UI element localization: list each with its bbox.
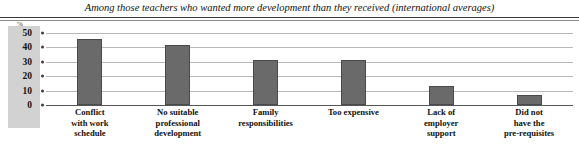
bar-4 [341, 60, 366, 105]
title-divider-thin [0, 20, 579, 21]
x-axis-label-line: Lack of [427, 107, 455, 117]
x-axis-label-line: professional [156, 118, 200, 128]
x-axis-label-2: No suitableprofessionaldevelopment [134, 107, 222, 139]
bar-1 [77, 39, 102, 105]
y-axis-tick-label-0: 0 [10, 100, 32, 110]
bar-3 [253, 60, 278, 105]
y-axis-tick-label-10: 10 [10, 86, 32, 96]
gridline-50 [46, 33, 573, 34]
x-axis-label-line: Conflict [75, 107, 105, 117]
y-axis-tick-marker-30 [41, 60, 44, 63]
title-divider-thick [0, 17, 579, 18]
y-axis-tick-label-20: 20 [10, 71, 32, 81]
x-axis-label-line: development [154, 128, 201, 138]
x-axis-label-line: pre-requisites [504, 128, 554, 138]
gridline-10 [46, 91, 573, 92]
x-axis-label-line: have the [514, 118, 545, 128]
y-axis-tick-marker-50 [41, 32, 44, 35]
y-axis-tick-label-50: 50 [10, 28, 32, 38]
gridline-40 [46, 47, 573, 48]
y-axis-tick-marker-20 [41, 75, 44, 78]
y-axis-tick-label-40: 40 [10, 42, 32, 52]
x-axis-label-line: No suitable [157, 107, 198, 117]
x-axis-label-line: Family [253, 107, 279, 117]
gridline-30 [46, 62, 573, 63]
x-axis-label-line: with work [71, 118, 108, 128]
y-axis-tick-marker-40 [41, 46, 44, 49]
x-axis-label-6: Did nothave thepre-requisites [485, 107, 573, 139]
x-axis-label-line: Too expensive [328, 107, 379, 117]
bar-5 [429, 86, 454, 105]
bar-2 [165, 45, 190, 105]
x-axis-label-line: Did not [515, 107, 542, 117]
x-axis-label-line: responsibilities [238, 118, 293, 128]
x-axis-label-3: Familyresponsibilities [222, 107, 310, 128]
x-axis-label-line: schedule [74, 128, 106, 138]
x-axis-label-5: Lack ofemployersupport [397, 107, 485, 139]
x-axis-label-line: employer [424, 118, 458, 128]
x-axis-label-1: Conflictwith workschedule [46, 107, 134, 139]
x-axis-label-line: support [427, 128, 456, 138]
chart-figure: Among those teachers who wanted more dev… [0, 0, 579, 145]
y-axis-tick-marker-10 [41, 89, 44, 92]
plot-area [46, 26, 573, 105]
x-axis-label-4: Too expensive [310, 107, 398, 118]
bar-6 [517, 95, 542, 105]
gridline-20 [46, 76, 573, 77]
chart-title: Among those teachers who wanted more dev… [0, 0, 579, 16]
gridline-0 [46, 105, 573, 106]
y-axis-tick-label-30: 30 [10, 57, 32, 67]
y-axis-tick-marker-0 [41, 104, 44, 107]
